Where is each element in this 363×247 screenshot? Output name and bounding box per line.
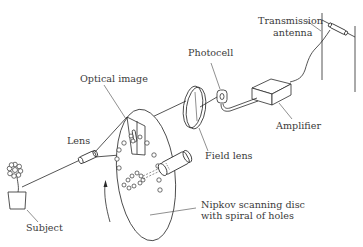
label-amplifier: Amplifier [276, 120, 321, 131]
subject [7, 162, 26, 209]
label-field-lens: Field lens [205, 150, 253, 161]
label-photocell: Photocell [188, 47, 233, 58]
label-optical-image: Optical image [80, 73, 148, 84]
amplifier-leader-line [279, 103, 292, 119]
label-nipkov-1: Nipkov scanning disc [201, 199, 305, 210]
photocell-leader-line [211, 63, 220, 89]
field-lens-leader-line [199, 128, 208, 151]
label-nipkov-2: with spiral of holes [201, 210, 294, 221]
label-transmission-antenna-2: antenna [273, 27, 313, 38]
label-subject: Subject [26, 222, 63, 233]
nipkov-disc [104, 106, 182, 243]
label-transmission-antenna-1: Transmission [258, 15, 323, 26]
label-lens: Lens [67, 135, 90, 146]
subject-leader-line [27, 210, 38, 222]
diagram-canvas: Transmission antenna Photocell Optical i… [0, 0, 363, 247]
optical-image-leader-line [104, 85, 126, 119]
field-lens [181, 85, 209, 130]
